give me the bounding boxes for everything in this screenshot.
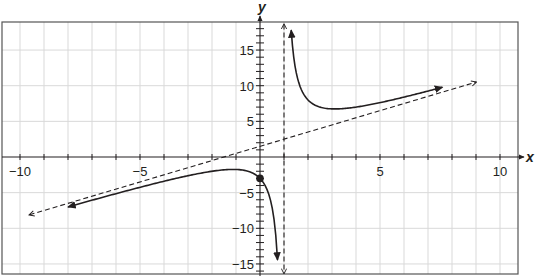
y-axis-label: y	[257, 0, 267, 15]
axes	[2, 16, 524, 276]
y-tick-label: 10	[240, 79, 254, 94]
x-tick-label: 5	[376, 164, 383, 179]
x-tick-label: −5	[133, 164, 148, 179]
y-tick-label: −5	[239, 186, 254, 201]
y-tick-label: 15	[240, 43, 254, 58]
function-curve-branch	[68, 169, 278, 260]
function-curve-branch	[291, 30, 442, 109]
y-tick-label: −15	[232, 257, 254, 272]
y-intercept-point	[256, 175, 264, 183]
x-tick-label: 10	[493, 164, 507, 179]
x-tick-label: −10	[9, 164, 31, 179]
y-tick-label: −10	[232, 221, 254, 236]
x-axis-label: x	[525, 149, 535, 165]
annotations-layer	[256, 175, 264, 183]
chart: −10−551015105−5−10−15 x y	[0, 0, 539, 279]
y-tick-label: 5	[247, 114, 254, 129]
